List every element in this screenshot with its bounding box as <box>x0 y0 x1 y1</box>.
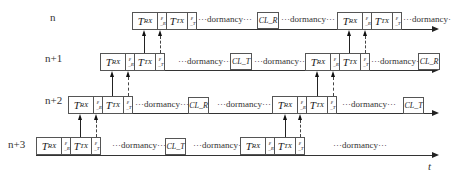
up-arrow-icon <box>347 30 351 36</box>
dormancy-label: ···dormancy··· <box>254 56 308 66</box>
up-arrow-icon <box>331 71 335 77</box>
up-arrow-icon <box>298 114 302 120</box>
row-label-n2: n+2 <box>45 94 62 106</box>
solid-connector <box>80 120 81 137</box>
solid-connector <box>317 77 318 96</box>
up-arrow-icon <box>363 30 367 36</box>
dashed-connector <box>160 36 161 53</box>
ttx-cell: TTX <box>274 137 296 155</box>
ttx-cell: TTX <box>102 96 124 114</box>
axis-arrowhead-icon <box>432 26 439 32</box>
solid-connector <box>112 77 113 96</box>
ttx-cell: TTX <box>134 53 156 71</box>
eps-t-cell: ε_T <box>91 137 101 155</box>
dormancy-label: ···dormancy··· <box>217 99 271 109</box>
eps-t-cell: ε_T <box>123 96 133 114</box>
ttx-cell: TTX <box>371 12 393 30</box>
axis-row-n3 <box>36 155 434 156</box>
dormancy-label: ···dormancy··· <box>193 140 247 150</box>
eps-t-cell: ε_T <box>392 12 402 30</box>
trx-cell: TRX <box>100 53 126 71</box>
cl-t-box: CL_T <box>403 97 424 114</box>
time-axis-label: t <box>428 160 431 172</box>
trx-cell: TRX <box>68 96 94 114</box>
up-arrow-icon <box>78 114 82 120</box>
row-label-n3: n+3 <box>8 138 25 150</box>
dormancy-timing-diagram: n n+1 n+2 n+3 t TRX ε_R TTX ε_T ···dorma… <box>0 0 456 176</box>
ttx-cell: TTX <box>339 53 361 71</box>
dormancy-label: ···dormancy··· <box>112 140 166 150</box>
eps-t-cell: ε_T <box>360 53 370 71</box>
up-arrow-icon <box>315 71 319 77</box>
up-arrow-icon <box>94 114 98 120</box>
row-label-n1: n+1 <box>45 52 62 64</box>
eps-t-cell: ε_T <box>155 53 165 71</box>
up-arrow-icon <box>126 71 130 77</box>
axis-arrowhead-icon <box>432 152 439 158</box>
trx-cell: TRX <box>337 12 363 30</box>
dormancy-label: ···dormancy··· <box>198 14 252 24</box>
solid-connector <box>285 120 286 137</box>
up-arrow-icon <box>158 30 162 36</box>
solid-connector <box>349 36 350 53</box>
axis-arrowhead-icon <box>432 110 439 116</box>
dormancy-label: ···dormancy··· <box>135 99 189 109</box>
trx-cell: TRX <box>36 137 62 155</box>
eps-t-cell: ε_T <box>327 96 337 114</box>
trx-cell: TRX <box>272 96 298 114</box>
dormancy-label: ···dormancy· <box>403 14 451 24</box>
trx-cell: TRX <box>132 12 158 30</box>
dashed-connector <box>300 120 301 137</box>
cl-t-box: CL_T <box>165 138 186 155</box>
dormancy-label: ···dormancy··· <box>371 56 425 66</box>
dormancy-label: ···dormancy··· <box>281 14 335 24</box>
dormancy-label: ···dormancy··· <box>342 99 396 109</box>
trx-cell: TRX <box>305 53 331 71</box>
dashed-connector <box>333 77 334 96</box>
cl-r-box: CL_R <box>257 12 279 29</box>
dormancy-label: ···dormancy··· <box>333 140 387 150</box>
up-arrow-icon <box>283 114 287 120</box>
eps-t-cell: ε_T <box>187 12 197 30</box>
cl-r-box: CL_R <box>188 97 209 114</box>
cl-t-box: CL_T <box>230 53 252 70</box>
trx-cell: TRX <box>240 137 266 155</box>
ttx-cell: TTX <box>70 137 92 155</box>
up-arrow-icon <box>110 71 114 77</box>
dormancy-label: ···dormancy··· <box>178 56 232 66</box>
ttx-cell: TTX <box>306 96 328 114</box>
dashed-connector <box>365 36 366 53</box>
eps-t-cell: ε_T <box>295 137 305 155</box>
row-label-n: n <box>50 11 56 23</box>
solid-connector <box>144 36 145 53</box>
dashed-connector <box>96 120 97 137</box>
dashed-connector <box>128 77 129 96</box>
up-arrow-icon <box>142 30 146 36</box>
cl-r-box: CL_R <box>418 53 440 70</box>
ttx-cell: TTX <box>166 12 188 30</box>
